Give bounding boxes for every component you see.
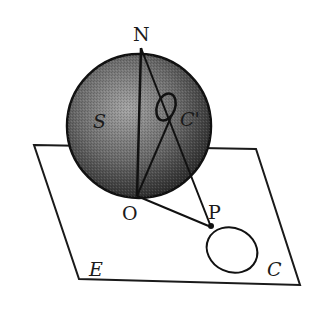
point-p — [208, 223, 214, 229]
label-e: E — [88, 258, 103, 280]
label-p: P — [208, 201, 221, 223]
stereographic-projection-diagram: N S C' O P E C — [0, 0, 328, 317]
label-c-prime: C' — [180, 108, 200, 130]
label-s: S — [93, 110, 106, 132]
label-n: N — [133, 23, 150, 45]
label-o: O — [122, 202, 138, 224]
label-c: C — [267, 258, 282, 280]
